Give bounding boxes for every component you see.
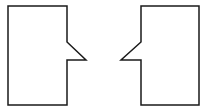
diagram-canvas	[0, 0, 204, 111]
left-callout-shape	[8, 6, 86, 105]
right-callout-shape	[121, 6, 199, 105]
